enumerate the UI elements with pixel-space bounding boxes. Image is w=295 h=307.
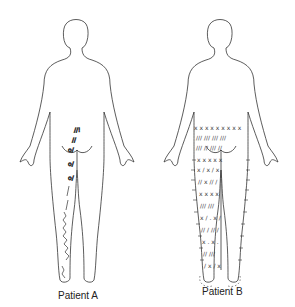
patient-b-markings: x x x x x x x x x /// /// /// /// /// //… xyxy=(191,124,250,287)
patient-a-markings: //! // o/ o/ o/ xyxy=(62,126,80,278)
svg-text:/// // /// //: /// // /// // xyxy=(196,144,223,151)
svg-text:// ///: // /// xyxy=(203,250,216,257)
patient-a-label: Patient A xyxy=(58,290,98,301)
svg-text:x . x .: x . x . xyxy=(202,238,219,245)
svg-text:/// /// /// ///: /// /// /// /// xyxy=(196,134,227,141)
body-outlines: //! // o/ o/ o/ x x x x x x x x x /// //… xyxy=(0,0,295,307)
svg-text:// x // /: // x // / xyxy=(198,178,218,185)
svg-text:o/: o/ xyxy=(68,160,75,167)
svg-text:x x x x x: x x x x x xyxy=(197,156,223,163)
svg-text:x x x x: x x x x xyxy=(199,190,219,197)
svg-text://!: //! xyxy=(74,126,80,133)
pain-diagram-figure: //! // o/ o/ o/ x x x x x x x x x /// //… xyxy=(0,0,295,307)
patient-a-body xyxy=(20,20,134,283)
svg-text://: // xyxy=(72,136,77,143)
svg-text:o/: o/ xyxy=(68,146,75,153)
svg-text:x / . x /: x / . x / xyxy=(200,214,222,221)
svg-text:x x x x x x x x x: x x x x x x x x x xyxy=(194,124,242,131)
svg-text:// / // /: // / // / xyxy=(201,226,220,233)
patient-b-label: Patient B xyxy=(202,286,243,297)
svg-text:/// ///: /// /// xyxy=(200,202,215,209)
svg-text:/ x / x: / x / x xyxy=(204,262,221,269)
svg-text:x / x / x: x / x / x xyxy=(197,166,220,173)
svg-text:o/: o/ xyxy=(68,174,75,181)
